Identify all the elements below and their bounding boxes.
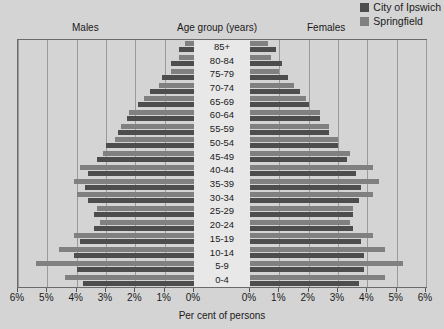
- bar-ipswich-male: [162, 75, 194, 80]
- bar-ipswich-male: [97, 157, 194, 162]
- bar-springfield-male: [144, 96, 194, 101]
- age-group-label-cell: 20-24: [194, 218, 250, 232]
- bar-springfield-male: [100, 220, 194, 225]
- bar-springfield-female: [250, 233, 373, 238]
- column-headers: Males Age group (years) Females: [17, 22, 427, 36]
- age-group-label: 65-69: [210, 97, 234, 107]
- female-bars: [250, 163, 426, 177]
- male-bars: [18, 246, 194, 260]
- female-bars: [250, 122, 426, 136]
- female-bars: [250, 54, 426, 68]
- pyramid-row: 10-14: [18, 246, 426, 260]
- bar-ipswich-female: [250, 253, 364, 258]
- male-bars: [18, 136, 194, 150]
- age-group-label-cell: 80-84: [194, 54, 250, 68]
- age-group-label: 25-29: [210, 206, 234, 216]
- male-bars: [18, 54, 194, 68]
- bar-ipswich-male: [83, 281, 194, 286]
- bar-ipswich-male: [80, 239, 194, 244]
- bar-ipswich-male: [150, 89, 194, 94]
- axis-tick-label: 6%: [10, 292, 24, 304]
- x-axis-tick-labels: 6%5%4%3%2%1%0%0%1%2%3%4%5%6%: [0, 292, 444, 306]
- bar-springfield-male: [77, 192, 194, 197]
- bar-springfield-female: [250, 151, 350, 156]
- bar-springfield-male: [97, 206, 194, 211]
- pyramid-rows: 85+80-8475-7970-7465-6960-6455-5950-5445…: [18, 40, 426, 287]
- bar-springfield-female: [250, 83, 294, 88]
- male-bars: [18, 232, 194, 246]
- pyramid-row: 65-69: [18, 95, 426, 109]
- header-age-group: Age group (years): [177, 22, 257, 34]
- bar-ipswich-male: [138, 102, 194, 107]
- bar-ipswich-male: [118, 130, 194, 135]
- x-axis: [17, 288, 427, 289]
- bar-springfield-female: [250, 55, 271, 60]
- bar-springfield-male: [80, 165, 194, 170]
- age-group-label: 70-74: [210, 83, 234, 93]
- age-group-label: 60-64: [210, 110, 234, 120]
- female-bars: [250, 40, 426, 54]
- bar-springfield-female: [250, 41, 268, 46]
- pyramid-row: 60-64: [18, 109, 426, 123]
- age-group-label: 80-84: [210, 56, 234, 66]
- bar-ipswich-male: [77, 267, 194, 272]
- legend-label-ipswich: City of Ipswich: [373, 2, 441, 13]
- male-bars: [18, 109, 194, 123]
- bar-ipswich-female: [250, 102, 309, 107]
- female-bars: [250, 205, 426, 219]
- female-bars: [250, 95, 426, 109]
- pyramid-row: 0-4: [18, 273, 426, 287]
- bar-ipswich-male: [94, 212, 194, 217]
- age-group-label-cell: 30-34: [194, 191, 250, 205]
- bar-springfield-male: [74, 233, 194, 238]
- bar-ipswich-male: [179, 47, 194, 52]
- pyramid-row: 35-39: [18, 177, 426, 191]
- bar-ipswich-female: [250, 171, 356, 176]
- bar-springfield-male: [121, 124, 194, 129]
- axis-tick-label: 3%: [98, 292, 112, 304]
- female-bars: [250, 232, 426, 246]
- bar-ipswich-female: [250, 143, 338, 148]
- bar-ipswich-female: [250, 75, 288, 80]
- age-group-label-cell: 0-4: [194, 273, 250, 287]
- bar-springfield-female: [250, 96, 306, 101]
- bar-springfield-female: [250, 165, 373, 170]
- bar-springfield-male: [129, 110, 194, 115]
- age-group-label: 85+: [214, 42, 230, 52]
- bar-springfield-male: [159, 83, 194, 88]
- pyramid-row: 70-74: [18, 81, 426, 95]
- bar-ipswich-female: [250, 239, 361, 244]
- age-group-label: 20-24: [210, 220, 234, 230]
- age-group-label: 55-59: [210, 124, 234, 134]
- bar-ipswich-female: [250, 47, 276, 52]
- pyramid-row: 25-29: [18, 205, 426, 219]
- bar-springfield-male: [179, 55, 194, 60]
- pyramid-row: 5-9: [18, 260, 426, 274]
- age-group-label-cell: 70-74: [194, 81, 250, 95]
- male-bars: [18, 177, 194, 191]
- bar-springfield-female: [250, 192, 373, 197]
- age-group-label-cell: 25-29: [194, 205, 250, 219]
- pyramid-row: 85+: [18, 40, 426, 54]
- male-bars: [18, 163, 194, 177]
- gridline: [426, 40, 427, 287]
- bar-springfield-female: [250, 261, 403, 266]
- bar-ipswich-female: [250, 61, 282, 66]
- bar-springfield-male: [59, 247, 194, 252]
- axis-tick-label: 2%: [300, 292, 314, 304]
- age-group-label-cell: 65-69: [194, 95, 250, 109]
- female-bars: [250, 246, 426, 260]
- header-females: Females: [307, 22, 345, 34]
- bar-springfield-male: [185, 41, 194, 46]
- bar-springfield-male: [36, 261, 194, 266]
- bar-ipswich-female: [250, 267, 364, 272]
- age-group-label-cell: 50-54: [194, 136, 250, 150]
- bar-ipswich-male: [94, 226, 194, 231]
- pyramid-row: 15-19: [18, 232, 426, 246]
- bar-springfield-female: [250, 137, 338, 142]
- male-bars: [18, 260, 194, 274]
- header-males: Males: [72, 22, 99, 34]
- pyramid-row: 45-49: [18, 150, 426, 164]
- male-bars: [18, 205, 194, 219]
- age-group-label: 75-79: [210, 69, 234, 79]
